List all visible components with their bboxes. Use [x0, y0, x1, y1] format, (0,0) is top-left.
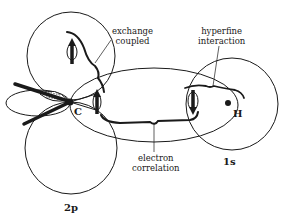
carbon-label: C	[74, 107, 82, 117]
correlation-label-line2: correlation	[132, 164, 180, 174]
carbon-nucleus	[67, 99, 74, 106]
exchange-label-line2: coupled	[112, 37, 153, 47]
leader-lines	[95, 40, 219, 152]
hydrogen-1s-circle	[186, 58, 278, 150]
orbital-2p-label: 2p	[64, 203, 78, 213]
spin-arrows	[68, 38, 197, 115]
orbital-diagram: exchange coupled hyperfine interaction e…	[0, 0, 282, 221]
exchange-coupled-label: exchange coupled	[112, 27, 153, 46]
hyperfine-interaction-label: hyperfine interaction	[198, 27, 245, 46]
hyperfine-label-line2: interaction	[198, 37, 245, 47]
hydrogen-label: H	[233, 109, 242, 119]
hydrogen-nucleus	[225, 100, 231, 106]
orbital-1s-label: 1s	[223, 157, 236, 167]
electron-correlation-label: electron correlation	[132, 154, 180, 173]
